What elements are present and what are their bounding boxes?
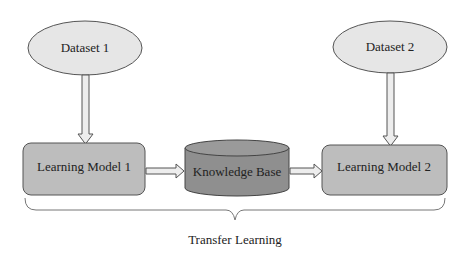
- dataset-1-label: Dataset 1: [61, 40, 110, 55]
- arrow-dataset1-to-model1: [78, 75, 93, 144]
- dataset-1-node: Dataset 1: [28, 21, 142, 75]
- learning-model-2-label: Learning Model 2: [337, 159, 431, 174]
- dataset-2-label: Dataset 2: [366, 39, 415, 54]
- knowledge-base-label: Knowledge Base: [193, 164, 282, 179]
- transfer-learning-brace: [25, 198, 445, 220]
- dataset-2-node: Dataset 2: [333, 21, 447, 73]
- arrow-dataset2-to-model2: [383, 73, 398, 146]
- transfer-learning-label: Transfer Learning: [188, 232, 282, 247]
- learning-model-1-label: Learning Model 1: [37, 159, 131, 174]
- arrow-model1-to-kb: [146, 164, 184, 178]
- learning-model-1-node: Learning Model 1: [23, 143, 145, 195]
- arrow-kb-to-model2: [290, 164, 322, 178]
- knowledge-base-node: Knowledge Base: [185, 140, 289, 196]
- learning-model-2-node: Learning Model 2: [322, 145, 447, 195]
